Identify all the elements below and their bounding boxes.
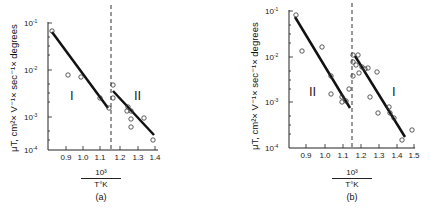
y-axis-label-a: μT, cm²× V⁻¹× sec⁻¹× degrees bbox=[8, 24, 19, 152]
svg-text:I: I bbox=[392, 84, 396, 99]
svg-text:1.2: 1.2 bbox=[355, 151, 367, 160]
svg-text:1.4: 1.4 bbox=[149, 153, 161, 162]
caption-b: (b) bbox=[337, 192, 367, 202]
svg-text:10-4: 10-4 bbox=[24, 145, 38, 155]
chart-panel-b: 10-1 10-2 10-3 10-4 0.91.01.1 1.21.31.41… bbox=[215, 0, 429, 209]
svg-text:1.0: 1.0 bbox=[319, 151, 331, 160]
svg-text:10-3: 10-3 bbox=[265, 97, 279, 107]
svg-text:I: I bbox=[70, 88, 74, 103]
svg-text:1.4: 1.4 bbox=[391, 151, 403, 160]
plot-b: 10-1 10-2 10-3 10-4 0.91.01.1 1.21.31.41… bbox=[215, 0, 429, 209]
svg-text:1.1: 1.1 bbox=[94, 153, 106, 162]
svg-text:10-1: 10-1 bbox=[265, 6, 279, 16]
caption-a: (a) bbox=[86, 192, 116, 202]
svg-text:1.2: 1.2 bbox=[114, 153, 126, 162]
svg-text:10-2: 10-2 bbox=[24, 65, 38, 75]
svg-text:II: II bbox=[309, 84, 316, 99]
svg-text:1.5: 1.5 bbox=[408, 151, 420, 160]
chart-panel-a: 10-1 10-2 10-3 10-4 0.91.01.1 1.21.31.4 … bbox=[0, 0, 214, 209]
svg-text:10-1: 10-1 bbox=[24, 18, 38, 28]
svg-text:10-4: 10-4 bbox=[265, 143, 279, 153]
svg-text:0.9: 0.9 bbox=[300, 151, 312, 160]
svg-text:0.9: 0.9 bbox=[60, 153, 72, 162]
x-axis-label-b: 10³ T°K bbox=[332, 168, 372, 189]
svg-text:1.3: 1.3 bbox=[373, 151, 385, 160]
svg-text:1.0: 1.0 bbox=[77, 153, 89, 162]
svg-text:1.3: 1.3 bbox=[132, 153, 144, 162]
svg-text:10-2: 10-2 bbox=[265, 52, 279, 62]
svg-text:II: II bbox=[134, 88, 141, 103]
y-axis-label-b: μT, cm²× V⁻¹× sec⁻¹× degrees bbox=[249, 22, 260, 150]
svg-text:1.1: 1.1 bbox=[337, 151, 349, 160]
svg-text:10-3: 10-3 bbox=[24, 112, 38, 122]
x-axis-label-a: 10³ T°K bbox=[81, 168, 121, 189]
